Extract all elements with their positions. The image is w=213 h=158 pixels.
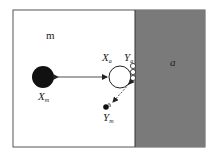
particle-xa: [109, 66, 131, 88]
region-a-label: a: [170, 56, 176, 68]
particle-ya: [130, 75, 135, 80]
particle-ym: [103, 104, 109, 110]
particle-ya: [130, 69, 135, 74]
diagram: m a Xm Xa Ya Ym: [0, 0, 213, 158]
particle-xm: [32, 66, 54, 88]
region-a: [135, 10, 205, 147]
region-m-label: m: [46, 29, 55, 41]
particle-ya: [130, 63, 135, 68]
